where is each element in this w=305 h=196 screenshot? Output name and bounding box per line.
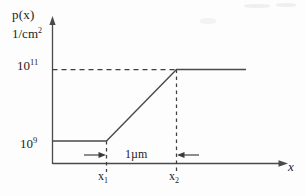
x-axis (53, 160, 289, 167)
y-tick-label-1e11: 1011 (17, 58, 38, 72)
y-tick-label-1e9: 109 (20, 136, 37, 150)
y-axis (49, 16, 55, 164)
y-tick-exponent: 11 (30, 57, 38, 67)
series-curve-px (53, 70, 247, 142)
dimension-arrow-left (84, 152, 106, 158)
y-tick-mantissa: 10 (20, 136, 33, 151)
x-tick-subscript: 1 (104, 176, 108, 185)
y-axis-units-text: 1/cm (12, 26, 38, 41)
y-tick-exponent: 9 (33, 135, 37, 145)
x-tick-label-x2: x2 (169, 170, 179, 185)
dimension-arrow-right (177, 152, 199, 158)
y-axis-units-label: 1/cm2 (12, 27, 42, 40)
y-axis-arrowhead (49, 16, 55, 25)
figure-canvas: p(x) 1/cm2 1011 109 x1 x2 1µm x (0, 0, 305, 196)
x-tick-subscript: 2 (175, 176, 179, 185)
x-axis-arrowhead (279, 160, 289, 167)
span-dimension-label: 1µm (125, 148, 147, 160)
y-axis-label: p(x) (12, 8, 34, 21)
y-axis-units-exponent: 2 (38, 26, 42, 35)
x-axis-label: x (288, 160, 294, 173)
plot-svg (0, 0, 305, 196)
x-tick-label-x1: x1 (98, 170, 108, 185)
y-tick-mantissa: 10 (17, 58, 30, 73)
